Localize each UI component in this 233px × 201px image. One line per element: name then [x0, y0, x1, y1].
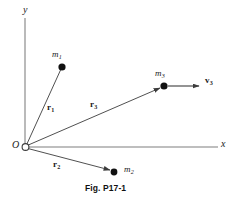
vector-r3-line — [26, 88, 160, 146]
mass-label-m3-symbol: m — [155, 68, 162, 78]
vector-r1-line — [26, 69, 61, 146]
mass-label-m3: m3 — [155, 69, 165, 78]
figure-caption: Fig. P17-1 — [85, 184, 126, 193]
vector-label-r3-subscript: 3 — [94, 104, 97, 110]
mass-label-m2: m2 — [124, 165, 134, 174]
mass-point-m2 — [111, 169, 118, 176]
y-axis-label: y — [23, 5, 27, 15]
mass-point-m1 — [58, 63, 65, 70]
vector-label-r2-subscript: 2 — [57, 164, 60, 170]
vector-label-r1: r1 — [47, 103, 54, 112]
mass-label-m1-subscript: 1 — [59, 54, 62, 60]
figure-drawing — [0, 0, 233, 201]
mass-point-m3 — [160, 82, 167, 89]
origin-label: O — [12, 140, 19, 150]
vector-label-r1-subscript: 1 — [51, 107, 54, 113]
vector-label-v3-subscript: 3 — [210, 80, 213, 86]
vector-label-v3-symbol: v — [205, 75, 210, 85]
x-axis-label: x — [221, 139, 225, 149]
figure-container: y x O m1 m2 m3 r1 r2 r3 v3 Fig. P17-1 — [0, 0, 233, 201]
vector-label-r3: r3 — [90, 100, 97, 109]
mass-label-m1-symbol: m — [52, 49, 59, 59]
mass-label-m3-subscript: 3 — [162, 73, 165, 79]
position-vectors-group — [26, 69, 160, 170]
vector-label-v3: v3 — [205, 76, 213, 85]
mass-label-m2-subscript: 2 — [131, 169, 134, 175]
mass-label-m1: m1 — [52, 50, 62, 59]
mass-label-m2-symbol: m — [124, 164, 131, 174]
axes-group — [25, 18, 218, 147]
origin-marker — [22, 144, 29, 151]
vector-label-r2: r2 — [53, 160, 60, 169]
vector-r2-line — [26, 148, 110, 170]
